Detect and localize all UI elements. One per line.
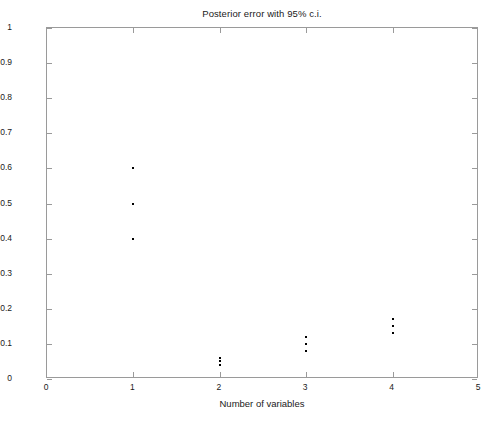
x-axis-tick-label: 3 <box>303 382 308 392</box>
data-point <box>132 238 134 240</box>
y-axis-tick-label: 1 <box>7 22 12 32</box>
y-axis-tick <box>47 344 52 345</box>
y-axis-tick-label: 0.9 <box>0 57 12 67</box>
y-axis-tick <box>47 63 52 64</box>
data-point <box>305 350 307 352</box>
y-axis-tick-right <box>472 63 477 64</box>
figure-canvas: Posterior error with 95% c.i. Number of … <box>0 0 495 422</box>
y-axis-tick <box>47 204 52 205</box>
y-axis-tick <box>47 274 52 275</box>
x-axis-tick-top <box>220 28 221 33</box>
data-point <box>392 318 394 320</box>
data-point <box>392 325 394 327</box>
x-axis-tick <box>133 372 134 377</box>
x-axis-tick-label: 5 <box>476 382 481 392</box>
y-axis-tick-right <box>472 98 477 99</box>
y-axis-tick-right <box>472 168 477 169</box>
x-axis-tick-top <box>133 28 134 33</box>
y-axis-tick-label: 0.4 <box>0 233 12 243</box>
y-axis-tick <box>47 309 52 310</box>
x-axis-tick-label: 4 <box>389 382 394 392</box>
y-axis-tick-right <box>472 28 477 29</box>
y-axis-tick-label: 0.8 <box>0 92 12 102</box>
x-axis-tick-label: 1 <box>130 382 135 392</box>
x-axis-tick-top <box>306 28 307 33</box>
y-axis-tick-label: 0.6 <box>0 162 12 172</box>
y-axis-tick-label: 0.7 <box>0 127 12 137</box>
y-axis-tick <box>47 379 52 380</box>
chart-title: Posterior error with 95% c.i. <box>46 8 478 19</box>
data-point <box>392 332 394 334</box>
y-axis-tick <box>47 98 52 99</box>
data-point <box>219 364 221 366</box>
plot-area <box>46 27 478 378</box>
data-point <box>305 343 307 345</box>
x-axis-tick-label: 2 <box>216 382 221 392</box>
data-point <box>132 167 134 169</box>
y-axis-tick <box>47 168 52 169</box>
y-axis-tick-right <box>472 204 477 205</box>
x-axis-tick <box>306 372 307 377</box>
y-axis-tick-label: 0.5 <box>0 198 12 208</box>
y-axis-tick-label: 0.2 <box>0 303 12 313</box>
data-point <box>305 336 307 338</box>
data-point <box>219 357 221 359</box>
y-axis-tick <box>47 28 52 29</box>
x-axis-tick-label: 0 <box>44 382 49 392</box>
y-axis-tick <box>47 133 52 134</box>
y-axis-tick-right <box>472 274 477 275</box>
y-axis-tick <box>47 239 52 240</box>
y-axis-tick-right <box>472 379 477 380</box>
data-point <box>219 360 221 362</box>
y-axis-tick-label: 0 <box>7 373 12 383</box>
x-axis-tick-top <box>393 28 394 33</box>
y-axis-tick-right <box>472 309 477 310</box>
y-axis-tick-label: 0.3 <box>0 268 12 278</box>
y-axis-tick-right <box>472 133 477 134</box>
y-axis-tick-right <box>472 239 477 240</box>
x-axis-tick <box>220 372 221 377</box>
x-axis-label: Number of variables <box>46 398 478 409</box>
x-axis-tick <box>393 372 394 377</box>
y-axis-tick-label: 0.1 <box>0 338 12 348</box>
data-point <box>132 203 134 205</box>
y-axis-tick-right <box>472 344 477 345</box>
plot-inner <box>47 28 477 377</box>
